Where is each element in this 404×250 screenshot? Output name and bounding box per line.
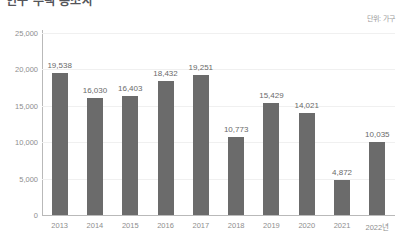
bar[interactable] [122,96,138,215]
bar-group: 16,030 [77,33,112,215]
bar-group: 15,429 [254,33,289,215]
x-axis-tick-label: 2014 [75,221,115,230]
bar-group: 4,872 [324,33,359,215]
x-axis-tick-label: 2016 [146,221,186,230]
bar[interactable] [158,81,174,215]
x-axis-tick-label: 2015 [110,221,150,230]
bar-group: 10,773 [219,33,254,215]
y-axis-tick-label: 5,000 [0,174,38,183]
bar-group: 19,538 [42,33,77,215]
y-axis-tick-label: 0 [0,211,38,220]
bar[interactable] [369,142,385,215]
x-axis-tick-label: 2022년 [357,221,397,232]
bar[interactable] [228,137,244,215]
bar-group: 16,403 [113,33,148,215]
page-title: 인구 주택 총조사 [6,0,93,8]
x-axis-tick-label: 2013 [40,221,80,230]
x-axis-tick-label: 2021 [322,221,362,230]
bar[interactable] [334,180,350,215]
bar-value-label: 16,030 [83,86,107,95]
bar-group: 10,035 [360,33,395,215]
x-axis-tick-label: 2020 [287,221,327,230]
bar-group: 18,432 [148,33,183,215]
y-axis-tick-label: 20,000 [0,65,38,74]
unit-note: 단위: 가구 [367,13,395,23]
bar[interactable] [87,98,103,215]
x-axis-tick-label: 2019 [251,221,291,230]
plot-area: 19,53816,03016,40318,43219,25110,77315,4… [42,33,395,215]
bar[interactable] [52,73,68,215]
bar-value-label: 15,429 [259,91,283,100]
bar-group: 14,021 [289,33,324,215]
bar-value-label: 10,035 [365,130,389,139]
x-axis-tick-label: 2018 [216,221,256,230]
bar-value-label: 19,538 [47,61,71,70]
bar-value-label: 18,432 [153,69,177,78]
bar-value-label: 16,403 [118,84,142,93]
y-axis-tick-label: 10,000 [0,138,38,147]
bar-value-label: 4,872 [332,168,352,177]
x-axis-tick-label: 2017 [181,221,221,230]
bar-value-label: 14,021 [295,101,319,110]
bar[interactable] [263,103,279,215]
y-axis-tick-label: 25,000 [0,29,38,38]
y-axis-tick-label: 15,000 [0,101,38,110]
x-axis-line [42,215,395,216]
bar[interactable] [299,113,315,215]
bar-value-label: 19,251 [189,63,213,72]
bar-value-label: 10,773 [224,125,248,134]
bar[interactable] [193,75,209,215]
bar-group: 19,251 [183,33,218,215]
